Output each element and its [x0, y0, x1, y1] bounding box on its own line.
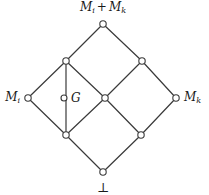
lattice-edge [66, 135, 103, 172]
label-top-sub1: i [92, 6, 95, 15]
lattice-node-mid[interactable] [102, 95, 108, 101]
label-right-sub: k [196, 96, 201, 105]
node-label-left: Mi [5, 91, 20, 105]
lattice-node-bot[interactable] [100, 169, 106, 175]
lattice-node-right[interactable] [173, 95, 179, 101]
lattice-node-ul[interactable] [63, 58, 69, 64]
lattice-edge [105, 98, 141, 135]
lattice-edge [103, 135, 141, 172]
lattice-node-lr[interactable] [138, 132, 144, 138]
label-left-M: M [5, 90, 17, 104]
label-top-operator: + [97, 0, 107, 14]
label-right-M: M [184, 90, 196, 104]
node-label-bottom: ⊥ [97, 181, 109, 194]
lattice-node-left[interactable] [25, 95, 31, 101]
lattice-edge [28, 98, 66, 135]
lattice-edge [141, 98, 176, 135]
lattice-node-ll[interactable] [63, 132, 69, 138]
label-top-M2: M [109, 0, 121, 14]
lattice-node-ur[interactable] [139, 58, 145, 64]
lattice-node-top[interactable] [100, 21, 106, 27]
lattice-graph [0, 0, 209, 195]
lattice-node-g[interactable] [61, 95, 67, 101]
lattice-edge [66, 24, 103, 61]
lattice-edge [103, 24, 142, 61]
node-label-top: Mi+Mk [80, 1, 126, 15]
lattice-edge [28, 61, 66, 98]
node-label-right: Mk [184, 91, 201, 105]
label-top-M1: M [80, 0, 92, 14]
label-top-sub2: k [121, 6, 126, 15]
lattice-edge [105, 61, 142, 98]
node-label-g: G [71, 92, 81, 104]
lattice-edge [142, 61, 176, 98]
node-layer [25, 21, 179, 175]
lattice-diagram: Mi+Mk Mi Mk G ⊥ [0, 0, 209, 195]
label-left-sub: i [17, 96, 20, 105]
